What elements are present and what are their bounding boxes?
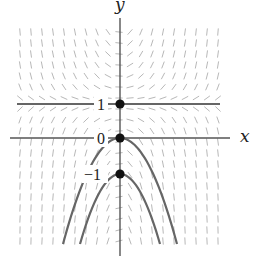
label-y-minus-1: −1 <box>84 166 101 183</box>
slope-field-diagram: 1 0 −1 y x <box>0 0 255 256</box>
point-0-minus-1 <box>115 169 124 178</box>
y-axis-label: y <box>114 0 125 14</box>
label-y0: 0 <box>97 130 105 147</box>
label-y1: 1 <box>97 96 105 113</box>
x-axis-label: x <box>240 126 250 146</box>
point-0-1 <box>115 99 124 108</box>
point-0-0 <box>115 133 124 142</box>
